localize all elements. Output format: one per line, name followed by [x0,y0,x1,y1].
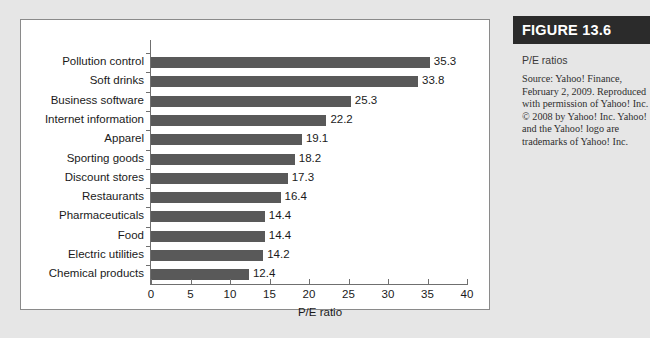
x-axis-title: P/E ratio [21,305,489,319]
x-axis-tick-label: 5 [187,287,193,301]
y-axis-tick [146,111,151,112]
category-label: Internet information [0,112,144,126]
bar-value-label: 33.8 [422,73,444,87]
y-axis-tick [146,53,151,54]
figure-source-note: Source: Yahoo! Finance, February 2, 2009… [522,73,650,149]
x-axis-tick [191,279,192,285]
y-axis-tick [146,92,151,93]
bar [151,154,295,165]
x-axis-tick-label: 0 [148,287,154,301]
x-axis-tick [230,279,231,285]
x-axis-tick [309,279,310,285]
figure-caption: P/E ratios [522,54,647,67]
y-axis-tick [146,265,151,266]
x-axis-tick-label: 15 [263,287,276,301]
page-background: Pollution control35.3Soft drinks33.8Busi… [0,0,650,338]
bar [151,134,302,145]
bar [151,115,326,126]
x-axis-tick-label: 30 [382,287,395,301]
x-axis-tick-label: 40 [461,287,474,301]
x-axis-tick-label: 35 [421,287,434,301]
x-axis-tick-label: 20 [303,287,316,301]
category-label: Business software [0,93,144,107]
category-label: Electric utilities [0,247,144,261]
y-axis-tick [146,72,151,73]
figure-number-label: FIGURE 13.6 [522,22,611,39]
chart-row: Internet information22.2 [21,111,489,131]
chart-row: Discount stores17.3 [21,169,489,189]
bar-value-label: 16.4 [285,189,307,203]
y-axis-tick [146,169,151,170]
figure-header-bar: FIGURE 13.6 [513,16,650,44]
bar [151,173,288,184]
x-axis-tick [428,279,429,285]
chart-row: Sporting goods18.2 [21,150,489,170]
y-axis-tick [146,227,151,228]
x-axis-tick [467,279,468,285]
bar-value-label: 25.3 [355,93,377,107]
figure-sidebar: FIGURE 13.6 P/E ratios Source: Yahoo! Fi… [513,8,650,338]
y-axis-tick [146,150,151,151]
x-axis-tick [270,279,271,285]
bar-value-label: 22.2 [330,112,352,126]
x-axis-tick [151,279,152,285]
category-label: Pollution control [0,54,144,68]
category-label: Food [0,228,144,242]
category-label: Chemical products [0,266,144,280]
bar [151,211,265,222]
bar [151,269,249,280]
x-axis-tick-label: 25 [342,287,355,301]
bar [151,96,351,107]
bar [151,192,281,203]
y-axis-tick [146,188,151,189]
bar-value-label: 14.2 [267,247,289,261]
x-axis-tick [388,279,389,285]
bar-value-label: 12.4 [253,266,275,280]
chart-row: Soft drinks33.8 [21,72,489,92]
chart-row: Pollution control35.3 [21,53,489,73]
category-label: Soft drinks [0,73,144,87]
y-axis-tick [146,246,151,247]
chart-row: Apparel19.1 [21,130,489,150]
chart-row: Pharmaceuticals14.4 [21,207,489,227]
y-axis-tick [146,207,151,208]
bar-value-label: 14.4 [269,228,291,242]
plot-area: Pollution control35.3Soft drinks33.8Busi… [21,20,489,309]
bar [151,231,265,242]
y-axis-tick [146,130,151,131]
category-label: Discount stores [0,170,144,184]
chart-row: Food14.4 [21,227,489,247]
x-axis-tick [349,279,350,285]
bar-value-label: 14.4 [269,208,291,222]
chart-row: Electric utilities14.2 [21,246,489,266]
category-label: Sporting goods [0,151,144,165]
bar [151,250,263,261]
category-label: Apparel [0,131,144,145]
bar-value-label: 18.2 [299,151,321,165]
chart-row: Restaurants16.4 [21,188,489,208]
bar [151,57,430,68]
chart-panel: Pollution control35.3Soft drinks33.8Busi… [20,19,490,310]
bar [151,76,418,87]
bar-value-label: 35.3 [434,54,456,68]
category-label: Restaurants [0,189,144,203]
bar-value-label: 19.1 [306,131,328,145]
chart-row: Chemical products12.4 [21,265,489,285]
bar-value-label: 17.3 [292,170,314,184]
category-label: Pharmaceuticals [0,208,144,222]
x-axis-tick-label: 10 [224,287,237,301]
chart-row: Business software25.3 [21,92,489,112]
